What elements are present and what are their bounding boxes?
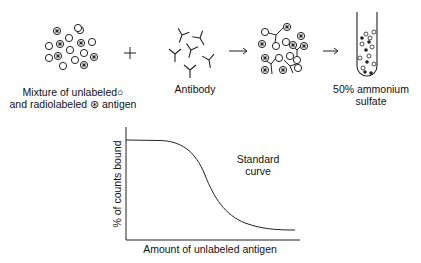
y-axis-label: % of counts bound xyxy=(111,128,123,240)
tube-label-line1: 50% ammonium xyxy=(328,83,414,95)
antibody-antigen-complex-icon xyxy=(258,23,307,74)
test-tube-icon xyxy=(357,12,377,76)
mixture-label-antigen: antigen xyxy=(102,98,136,110)
arrow-right-icon xyxy=(229,48,247,54)
unlabeled-antigen-symbol: ○ xyxy=(117,86,123,98)
arrow-right-icon xyxy=(323,48,338,54)
antigen-mixture-icon xyxy=(45,24,97,69)
mixture-label-line2: and radiolabeled xyxy=(10,98,88,110)
mixture-label-line1: Mixture of unlabeled xyxy=(23,86,118,98)
x-axis-label: Amount of unlabeled antigen xyxy=(130,243,290,255)
standard-curve-chart xyxy=(126,127,300,240)
diagram-artwork xyxy=(0,0,421,263)
labeled-antigen-symbol: ⊛ xyxy=(90,98,99,110)
antibody-label: Antibody xyxy=(160,83,230,95)
tube-label-line2: sulfate xyxy=(328,95,414,107)
plus-icon xyxy=(124,47,136,59)
tube-label: 50% ammonium sulfate xyxy=(328,83,414,107)
curve-annotation: Standard curve xyxy=(228,153,288,177)
mixture-label: Mixture of unlabeled○ and radiolabeled ⊛… xyxy=(8,86,138,110)
antibody-icon xyxy=(169,28,216,78)
